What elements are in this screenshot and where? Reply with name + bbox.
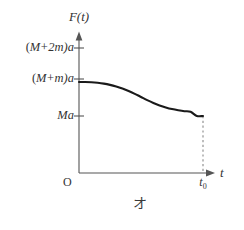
symbol-2m: 2m: [48, 40, 63, 54]
y-tick-label-m-plus-m-a: (M+m)a: [32, 72, 74, 85]
y-axis-label: F(t): [69, 10, 89, 23]
force-curve: [79, 82, 203, 116]
paren-close-a: )a: [64, 71, 74, 85]
operator-plus: +: [46, 71, 54, 85]
x-axis-label: t: [220, 166, 224, 179]
y-tick-label-m-plus-2m-a: (M+2m)a: [26, 41, 74, 54]
origin-label: O: [63, 176, 72, 188]
paren-close-a: )a: [64, 40, 74, 54]
symbol-M: M: [36, 71, 46, 85]
plot-canvas: [0, 0, 244, 230]
y-tick-label-ma: Ma: [57, 109, 74, 122]
symbol-m: m: [55, 71, 64, 85]
x-axis: [79, 170, 215, 177]
y-axis: [76, 32, 83, 174]
symbol-M: M: [30, 40, 40, 54]
force-time-graph-figure: F(t) t O t0 (M+2m)a (M+m)a Ma オ: [0, 0, 244, 230]
x-tick-label-t0: t0: [199, 176, 206, 191]
figure-caption: オ: [133, 196, 147, 210]
t0-subscript: 0: [203, 182, 207, 191]
